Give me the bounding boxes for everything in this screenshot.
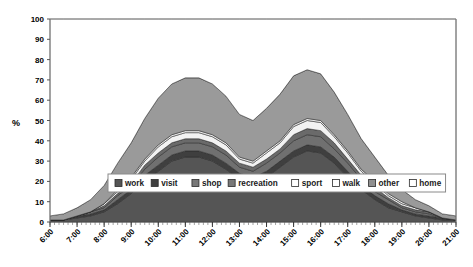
y-tick-label: 90 — [35, 35, 44, 44]
y-tick-label: 50 — [35, 117, 44, 126]
legend-label-walk: walk — [341, 179, 360, 188]
legend-label-shop: shop — [202, 179, 222, 188]
y-tick-label: 10 — [35, 198, 44, 207]
y-tick-label: 100 — [31, 15, 45, 24]
chart-canvas: 0102030405060708090100 6:007:008:009:001… — [0, 0, 473, 267]
legend-swatch-work — [115, 180, 122, 187]
legend-swatch-shop — [192, 180, 199, 187]
y-axis-title: % — [12, 118, 20, 128]
legend-label-recreation: recreation — [238, 179, 278, 188]
chart-legend: workvisitshoprecreationsportwalkotherhom… — [108, 174, 446, 192]
y-tick-label: 20 — [35, 177, 44, 186]
y-tick-label: 70 — [35, 76, 44, 85]
legend-label-sport: sport — [302, 179, 323, 188]
legend-swatch-recreation — [228, 180, 235, 187]
stacked-area-chart: 0102030405060708090100 6:007:008:009:001… — [0, 0, 473, 267]
y-tick-label: 0 — [40, 218, 45, 227]
y-tick-label: 40 — [35, 137, 44, 146]
legend-swatch-walk — [332, 180, 339, 187]
legend-label-visit: visit — [161, 179, 178, 188]
legend-label-home: home — [419, 179, 441, 188]
legend-swatch-sport — [292, 180, 299, 187]
legend-label-work: work — [124, 179, 145, 188]
legend-swatch-home — [409, 180, 416, 187]
y-tick-label: 30 — [35, 157, 44, 166]
legend-label-other: other — [379, 179, 400, 188]
y-tick-label: 60 — [35, 96, 44, 105]
y-tick-label: 80 — [35, 56, 44, 65]
legend-swatch-other — [369, 180, 376, 187]
legend-swatch-visit — [151, 180, 158, 187]
